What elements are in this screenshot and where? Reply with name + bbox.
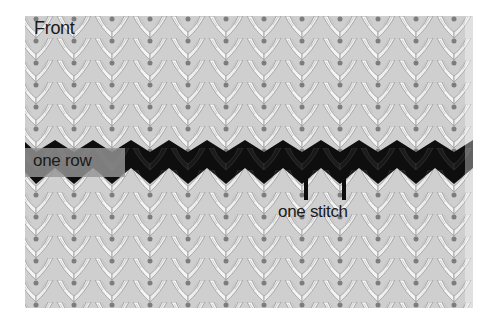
stitch-marker-left	[304, 172, 308, 200]
figure-title: Front	[34, 18, 75, 39]
stitch-marker-right	[342, 172, 346, 200]
row-annotation: one row	[33, 151, 91, 171]
stitch-annotation: one stitch	[278, 202, 348, 222]
